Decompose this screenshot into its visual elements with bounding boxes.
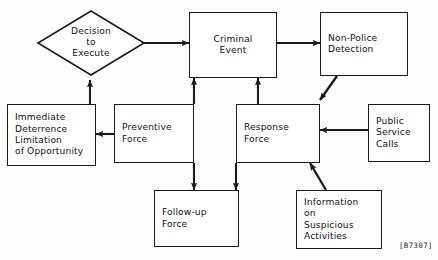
node-decision-label: Decision to Execute [36,26,146,60]
node-follow-up-force[interactable]: Follow-up Force [154,190,239,247]
node-non-police-detection-label: Non-Police Detection [321,33,407,56]
node-immediate-deterrence-label: Immediate Deterrence Limitation of Oppor… [8,112,95,158]
figure-caption: [B7307] [399,241,433,250]
node-criminal-event[interactable]: Criminal Event [189,12,277,78]
node-follow-up-force-label: Follow-up Force [155,207,238,230]
edge-non-police-detection-to-response-force [320,76,337,100]
node-response-force-label: Response Force [237,122,319,145]
node-immediate-deterrence[interactable]: Immediate Deterrence Limitation of Oppor… [7,104,96,166]
node-public-service-calls[interactable]: Public Service Calls [368,104,430,162]
node-preventive-force-label: Preventive Force [115,122,193,145]
node-information-suspicious-activities[interactable]: Information on Suspicious Activities [296,190,382,249]
node-information-suspicious-activities-label: Information on Suspicious Activities [297,197,381,243]
node-response-force[interactable]: Response Force [236,104,320,163]
node-decision-to-execute[interactable]: Decision to Execute [36,9,146,77]
diagram-canvas: Decision to Execute Criminal Event Non-P… [0,0,438,260]
node-non-police-detection[interactable]: Non-Police Detection [320,12,408,76]
node-public-service-calls-label: Public Service Calls [369,116,429,150]
node-preventive-force[interactable]: Preventive Force [114,104,194,163]
edge-information-to-response-force [310,163,326,190]
node-criminal-event-label: Criminal Event [190,34,276,57]
